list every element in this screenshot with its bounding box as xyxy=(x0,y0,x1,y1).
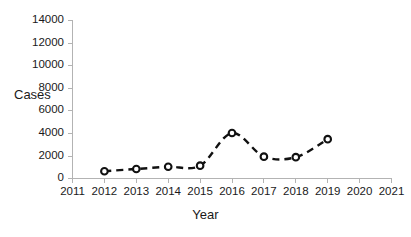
data-point-marker xyxy=(324,136,331,143)
data-point-marker xyxy=(197,162,204,169)
x-tick-label: 2017 xyxy=(248,186,280,198)
x-tick-label: 2018 xyxy=(280,186,312,198)
y-tick-label: 12000 xyxy=(18,37,64,49)
x-tick-label: 2021 xyxy=(376,186,408,198)
x-tick-label: 2019 xyxy=(312,186,344,198)
y-tick-label: 14000 xyxy=(18,14,64,26)
data-point-marker xyxy=(133,166,140,173)
y-tick-marks xyxy=(68,21,73,179)
x-tick-label: 2013 xyxy=(120,186,152,198)
series-markers-cases xyxy=(101,130,331,175)
x-tick-marks xyxy=(73,179,392,184)
y-tick-label: 2000 xyxy=(18,150,64,162)
y-tick-label: 6000 xyxy=(18,104,64,116)
x-tick-label: 2015 xyxy=(184,186,216,198)
data-point-marker xyxy=(101,168,108,175)
x-tick-label: 2012 xyxy=(88,186,120,198)
x-tick-label: 2011 xyxy=(57,186,89,198)
y-axis-title: Cases xyxy=(14,88,51,101)
data-point-marker xyxy=(165,163,172,170)
x-axis-title: Year xyxy=(0,208,411,221)
y-tick-label: 4000 xyxy=(18,127,64,139)
data-point-marker xyxy=(229,130,236,137)
x-tick-label: 2014 xyxy=(152,186,184,198)
y-tick-label: 10000 xyxy=(18,59,64,71)
x-tick-label: 2016 xyxy=(216,186,248,198)
axes-group xyxy=(73,20,393,179)
chart-figure: 14000 12000 10000 8000 6000 4000 2000 0 … xyxy=(0,0,411,237)
x-tick-label: 2020 xyxy=(344,186,376,198)
data-point-marker xyxy=(293,154,300,161)
y-tick-label: 0 xyxy=(18,172,64,184)
data-point-marker xyxy=(261,153,268,160)
